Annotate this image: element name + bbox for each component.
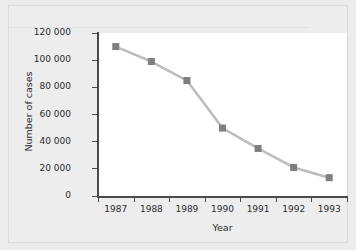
data-point-marker [290,164,297,171]
chart-figure-inner: 120 000 100 000 80 000 60 000 40 000 20 … [8,5,348,243]
data-point-marker [255,145,262,152]
data-point-marker [148,58,155,65]
series-markers [112,43,332,181]
data-point-marker [112,43,119,50]
data-point-marker [219,125,226,132]
data-series-layer [9,6,349,244]
series-line [116,47,329,178]
chart-figure: 120 000 100 000 80 000 60 000 40 000 20 … [0,0,356,250]
x-axis-title: Year [98,222,347,233]
data-point-marker [183,77,190,84]
data-point-marker [326,174,333,181]
y-axis-title: Number of cases [23,57,34,167]
